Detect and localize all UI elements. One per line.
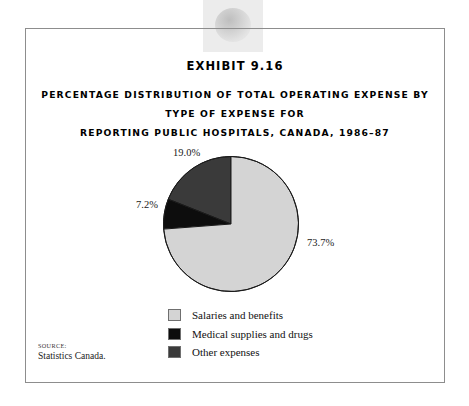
chart-legend: Salaries and benefits Medical supplies a… xyxy=(168,306,313,362)
legend-label-medical-supplies: Medical supplies and drugs xyxy=(192,328,313,340)
pie-label-salaries-benefits: 73.7% xyxy=(307,237,334,248)
pie-chart-svg xyxy=(156,149,306,299)
source-note: SOURCE: Statistics Canada. xyxy=(38,342,106,362)
legend-item-salaries-benefits: Salaries and benefits xyxy=(168,306,313,325)
legend-swatch-other-expenses xyxy=(168,346,181,358)
legend-label-other-expenses: Other expenses xyxy=(192,346,260,358)
legend-swatch-medical-supplies xyxy=(168,328,181,340)
legend-label-salaries-benefits: Salaries and benefits xyxy=(192,309,283,321)
pie-label-medical-supplies: 7.2% xyxy=(136,199,158,210)
source-label: SOURCE: xyxy=(38,342,106,350)
exhibit-frame: EXHIBIT 9.16 PERCENTAGE DISTRIBUTION OF … xyxy=(25,28,445,383)
pie-label-other-expenses: 19.0% xyxy=(173,147,200,158)
legend-item-other-expenses: Other expenses xyxy=(168,343,313,362)
source-text: Statistics Canada. xyxy=(38,350,106,362)
legend-item-medical-supplies: Medical supplies and drugs xyxy=(168,325,313,344)
legend-swatch-salaries-benefits xyxy=(168,309,181,321)
